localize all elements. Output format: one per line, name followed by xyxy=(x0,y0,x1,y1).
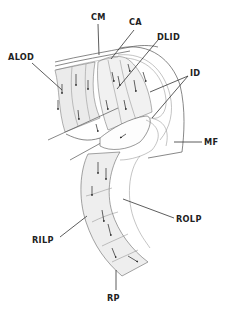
leader-id-1 xyxy=(150,76,188,92)
rolp-outline xyxy=(129,156,150,248)
label-rilp: RILP xyxy=(32,235,54,245)
label-mf: MF xyxy=(204,137,218,147)
leader-cm xyxy=(98,24,99,55)
label-rolp: ROLP xyxy=(176,214,202,224)
leader-rolp xyxy=(123,199,174,218)
label-rp: RP xyxy=(107,293,120,303)
label-alod: ALOD xyxy=(8,52,34,62)
rilp-band xyxy=(81,152,148,276)
alod-region xyxy=(55,62,100,132)
label-id: ID xyxy=(190,68,200,78)
label-cm: CM xyxy=(91,12,106,22)
anatomical-diagram: CM CA DLID ALOD ID MF ROLP RILP RP xyxy=(0,0,232,312)
leader-rilp xyxy=(60,216,87,237)
label-ca: CA xyxy=(129,17,142,27)
label-dlid: DLID xyxy=(157,32,180,42)
